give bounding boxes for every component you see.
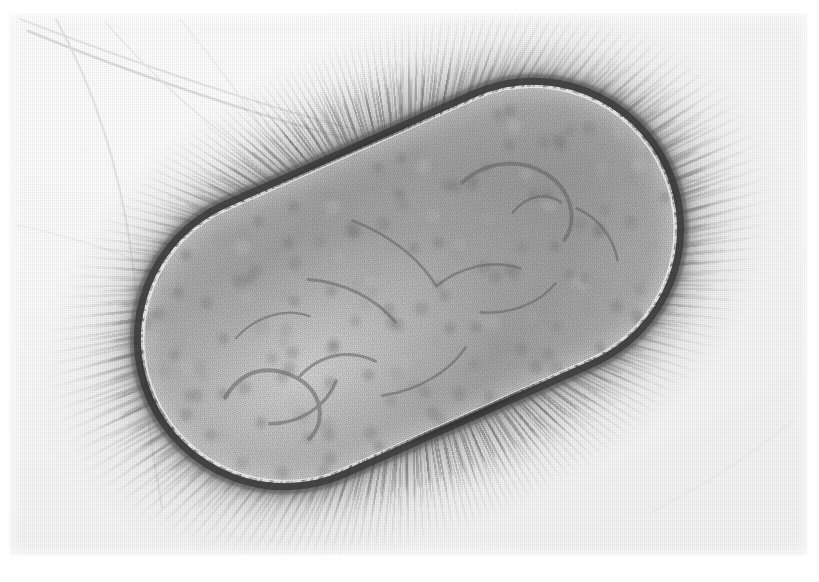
micrograph-figure: rod-shaped bacterium rod (capsule / stad…	[0, 0, 819, 582]
specimen-name: rod-shaped bacterium	[0, 0, 1, 1]
figure-metadata: rod-shaped bacterium rod (capsule / stad…	[0, 0, 1, 1]
micrograph-plate	[10, 13, 807, 555]
